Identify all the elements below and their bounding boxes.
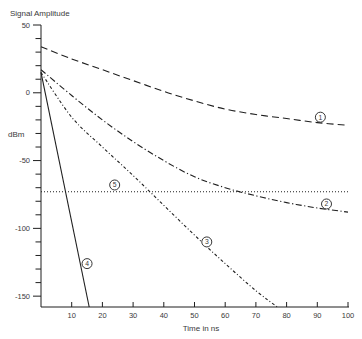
signal-amplitude-chart: Signal Amplitude dBm Time in ns 500-50-1… [0, 0, 362, 339]
series-4-label: 4 [82, 259, 92, 269]
series-3-label: 3 [202, 237, 212, 247]
y-tick-label: 0 [26, 88, 30, 97]
series-4-label-number: 4 [85, 260, 89, 267]
y-tick-label: -100 [15, 224, 30, 233]
x-tick-label: 50 [190, 311, 198, 320]
plot-area: 500-50-100-15010203040506070809010012345 [15, 21, 354, 320]
chart-page: Signal Amplitude dBm Time in ns 500-50-1… [0, 0, 362, 339]
x-tick-label: 20 [98, 311, 106, 320]
y-tick-label: 50 [22, 21, 30, 30]
series-3-line [41, 72, 277, 307]
x-tick-label: 100 [342, 311, 355, 320]
x-tick-label: 30 [129, 311, 137, 320]
series-2-label-number: 2 [325, 200, 329, 207]
series-1-line [41, 47, 348, 126]
series-1-label: 1 [315, 112, 325, 122]
x-tick-label: 70 [252, 311, 260, 320]
series-1-label-number: 1 [318, 114, 322, 121]
chart-title: Signal Amplitude [10, 9, 70, 18]
x-axis-label: Time in ns [183, 324, 220, 333]
x-tick-label: 60 [221, 311, 229, 320]
series-3-label-number: 3 [205, 238, 209, 245]
x-tick-label: 90 [313, 311, 321, 320]
y-tick-label: -50 [19, 156, 30, 165]
x-tick-label: 40 [160, 311, 168, 320]
series-5-label: 5 [110, 180, 120, 190]
y-axis-unit-label: dBm [8, 130, 25, 139]
series-5-label-number: 5 [113, 181, 117, 188]
y-tick-label: -150 [15, 292, 30, 301]
series-2-label: 2 [322, 199, 332, 209]
x-tick-label: 80 [282, 311, 290, 320]
x-tick-label: 10 [68, 311, 76, 320]
series-2-line [41, 70, 348, 212]
